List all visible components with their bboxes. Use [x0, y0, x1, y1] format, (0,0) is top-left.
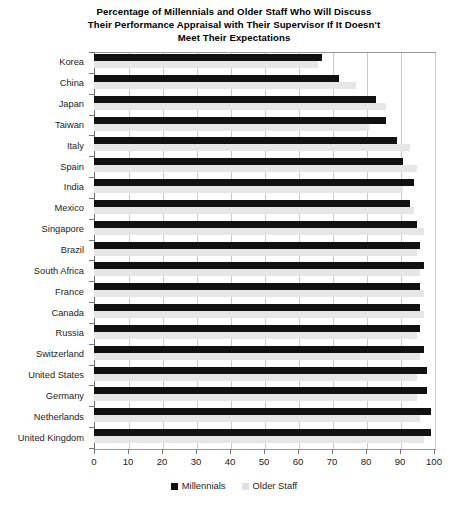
bar-older-staff [94, 353, 420, 360]
bar-millennials [94, 54, 322, 61]
bar-older-staff [94, 394, 417, 401]
legend-swatch-icon [242, 483, 249, 490]
x-axis-label: 80 [361, 456, 372, 467]
bar-chart: Percentage of Millennials and Older Staf… [0, 0, 468, 521]
bar-older-staff [94, 82, 356, 89]
bar-older-staff [94, 186, 403, 193]
y-axis-label: Taiwan [0, 120, 84, 130]
bar-millennials [94, 283, 420, 290]
bar-row [94, 177, 435, 198]
bar-millennials [94, 200, 410, 207]
chart-title: Percentage of Millennials and Older Staf… [0, 5, 468, 45]
x-axis-tick [264, 449, 265, 454]
bar-older-staff [94, 144, 410, 151]
chart-title-line-3: Meet Their Expectations [0, 31, 468, 44]
bar-older-staff [94, 249, 417, 256]
bar-millennials [94, 408, 431, 415]
bar-older-staff [94, 228, 424, 235]
bar-row [94, 198, 435, 219]
y-axis-label: United States [0, 370, 84, 380]
bar-millennials [94, 117, 386, 124]
bar-row [94, 365, 435, 386]
y-axis-label: Italy [0, 141, 84, 151]
legend-item: Millennials [171, 481, 226, 491]
y-axis-label: Singapore [0, 224, 84, 234]
y-axis-label: France [0, 287, 84, 297]
y-axis-label: Spain [0, 162, 84, 172]
x-axis-label: 100 [426, 456, 442, 467]
bar-row [94, 94, 435, 115]
bar-millennials [94, 387, 427, 394]
y-axis-label: Brazil [0, 245, 84, 255]
bar-row [94, 52, 435, 73]
bar-row [94, 281, 435, 302]
bar-older-staff [94, 124, 369, 131]
bar-row [94, 406, 435, 427]
bar-millennials [94, 429, 431, 436]
legend-label: Millennials [182, 481, 226, 491]
x-axis-tick [162, 449, 163, 454]
bar-row [94, 156, 435, 177]
bar-millennials [94, 242, 420, 249]
x-axis-label: 30 [191, 456, 202, 467]
x-axis-tick [196, 449, 197, 454]
bar-millennials [94, 262, 424, 269]
bar-older-staff [94, 61, 318, 68]
chart-title-line-1: Percentage of Millennials and Older Staf… [0, 5, 468, 18]
bar-older-staff [94, 290, 424, 297]
x-axis-tick [434, 449, 435, 454]
bar-millennials [94, 158, 403, 165]
bar-row [94, 302, 435, 323]
x-axis-label: 40 [225, 456, 236, 467]
x-axis-label: 50 [259, 456, 270, 467]
x-axis-label: 90 [395, 456, 406, 467]
x-axis-tick [298, 449, 299, 454]
y-axis: KoreaChinaJapanTaiwanItalySpainIndiaMexi… [0, 52, 90, 448]
bar-millennials [94, 367, 427, 374]
bar-row [94, 385, 435, 406]
bar-row [94, 344, 435, 365]
legend-item: Older Staff [242, 481, 298, 491]
x-axis-label: 70 [327, 456, 338, 467]
bar-row [94, 73, 435, 94]
bar-older-staff [94, 415, 420, 422]
x-axis-tick [128, 449, 129, 454]
y-axis-label: Canada [0, 308, 84, 318]
x-axis-tick [230, 449, 231, 454]
bar-older-staff [94, 103, 386, 110]
x-axis-labels: 0102030405060708090100 [0, 456, 468, 470]
y-axis-label: Switzerland [0, 349, 84, 359]
legend-swatch-icon [171, 483, 178, 490]
bar-older-staff [94, 165, 417, 172]
bar-millennials [94, 346, 424, 353]
bar-older-staff [94, 207, 414, 214]
bar-millennials [94, 221, 417, 228]
bar-older-staff [94, 374, 417, 381]
x-axis-ticks [94, 449, 435, 455]
bar-row [94, 135, 435, 156]
y-axis-label: Germany [0, 391, 84, 401]
bar-row [94, 219, 435, 240]
x-axis-tick [94, 449, 95, 454]
bar-row [94, 427, 435, 448]
bar-millennials [94, 75, 339, 82]
x-axis-label: 0 [91, 456, 96, 467]
y-axis-label: Russia [0, 328, 84, 338]
bar-older-staff [94, 332, 417, 339]
y-axis-label: Japan [0, 99, 84, 109]
y-axis-label: China [0, 78, 84, 88]
bar-older-staff [94, 311, 424, 318]
chart-title-line-2: Their Performance Appraisal with Their S… [0, 18, 468, 31]
gridline [435, 53, 436, 449]
bar-row [94, 115, 435, 136]
x-axis-tick [332, 449, 333, 454]
y-axis-label: United Kingdom [0, 433, 84, 443]
x-axis-label: 10 [123, 456, 134, 467]
legend-label: Older Staff [253, 481, 298, 491]
bar-millennials [94, 325, 420, 332]
chart-legend: MillennialsOlder Staff [0, 481, 468, 491]
y-axis-label: India [0, 182, 84, 192]
x-axis-label: 60 [293, 456, 304, 467]
y-axis-label: Mexico [0, 203, 84, 213]
y-axis-label: Korea [0, 57, 84, 67]
